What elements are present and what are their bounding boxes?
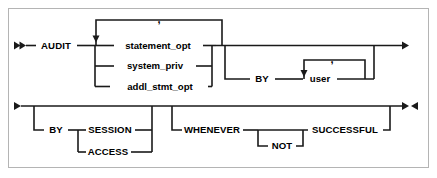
syntax-diagram-figure: AUDIT statement_opt system_priv addl_stm… [0,0,437,178]
row1-end-arrow-icon [402,42,409,50]
comma-loop-down-arrow-icon [93,36,100,43]
start-double-arrow-icon [14,42,26,50]
token-by-user: BY [255,73,269,84]
rail-whenever-exit [383,106,390,130]
row2-start-arrow-icon [14,102,21,110]
token-user: user [310,73,331,84]
user-comma-loop-down-arrow-icon [301,70,308,77]
end-terminator-icon [402,102,418,110]
token-not: NOT [272,140,293,151]
token-comma-top: , [157,13,160,25]
token-audit: AUDIT [41,40,71,51]
rail-by-user-enter [225,46,250,80]
token-comma-user: , [330,53,333,65]
token-session: SESSION [88,124,131,135]
token-successful: SUCCESSFUL [312,124,378,135]
token-system-priv: system_priv [127,60,184,71]
token-addl-stmt-opt: addl_stmt_opt [127,81,193,92]
token-access: ACCESS [88,146,129,157]
railroad-diagram-svg: AUDIT statement_opt system_priv addl_stm… [0,0,437,178]
token-by-mode: BY [49,124,63,135]
rail-by-mode-enter [34,106,44,130]
rail-not-enter [258,130,268,146]
rail-whenever-enter [172,106,182,130]
token-whenever: WHENEVER [184,124,240,135]
rail-not-exit [296,130,303,146]
token-statement-opt: statement_opt [125,40,191,51]
